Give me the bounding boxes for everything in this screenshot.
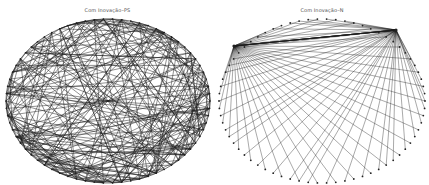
graph-node: [335, 19, 337, 21]
graph-edge: [94, 19, 103, 20]
graph-node: [9, 78, 11, 80]
graph-node: [228, 136, 230, 138]
graph-node: [112, 182, 114, 184]
graph-node: [112, 18, 114, 20]
graph-node: [232, 44, 235, 47]
graph-node: [203, 129, 205, 131]
network-graph-ps: [0, 0, 215, 185]
graph-node: [257, 36, 259, 38]
graph-node: [220, 86, 222, 88]
graph-edge: [234, 46, 423, 86]
graph-node: [7, 115, 9, 117]
graph-node: [385, 164, 387, 166]
graph-node: [422, 115, 424, 117]
graph-node: [353, 22, 355, 24]
graph-node: [424, 100, 426, 102]
graph-node: [209, 93, 211, 95]
graph-node: [244, 154, 246, 156]
graph-edge: [219, 30, 396, 101]
graph-node: [171, 164, 173, 166]
graph-edge: [223, 46, 234, 123]
graph-node: [44, 36, 46, 38]
graph-node: [25, 148, 27, 150]
graph-edge: [258, 30, 396, 165]
graph-node: [238, 52, 240, 54]
graph-node: [326, 182, 328, 184]
graph-node: [420, 78, 422, 80]
graph-node: [420, 122, 422, 124]
graph-node: [147, 176, 149, 178]
graph-node: [264, 169, 266, 171]
graph-node: [404, 52, 406, 54]
graph-node: [156, 28, 158, 30]
graph-node: [20, 58, 22, 60]
graph-node: [12, 129, 14, 131]
graph-node: [59, 28, 61, 30]
graph-edge: [20, 59, 171, 165]
graph-node: [67, 25, 69, 27]
graph-node: [51, 32, 53, 34]
graph-node: [281, 25, 283, 27]
graph-node: [147, 25, 149, 27]
graph-node: [30, 46, 32, 48]
graph-node: [326, 18, 328, 20]
graph-node: [399, 46, 401, 48]
graph-node: [184, 154, 186, 156]
graph-node: [344, 180, 346, 182]
graph-node: [317, 18, 319, 20]
graph-edge: [234, 20, 336, 46]
graph-node: [203, 71, 205, 73]
graph-node: [195, 142, 197, 144]
graph-node: [317, 182, 319, 184]
graph-node: [178, 41, 180, 43]
graph-node: [344, 20, 346, 22]
graph-node: [218, 100, 220, 102]
graph-node: [244, 46, 246, 48]
graph-node: [424, 108, 426, 110]
graph-node: [30, 154, 32, 156]
graph-edge: [234, 46, 418, 72]
graph-node: [37, 41, 39, 43]
graph-node: [225, 71, 227, 73]
graph-node: [139, 22, 141, 24]
graph-node: [37, 160, 39, 162]
graph-node: [250, 41, 252, 43]
graph-node: [225, 129, 227, 131]
graph-node: [190, 52, 192, 54]
graph-node: [7, 86, 9, 88]
graph-node: [208, 86, 210, 88]
graph-node: [219, 108, 221, 110]
graph-node: [272, 172, 274, 174]
graph-node: [209, 100, 211, 102]
graph-node: [281, 176, 283, 178]
graph-node: [362, 25, 364, 27]
network-panel-ps: Com Inovação–PS: [0, 0, 215, 185]
graph-node: [76, 22, 78, 24]
graph-node: [392, 41, 394, 43]
graph-node: [424, 93, 426, 95]
graph-edge: [234, 46, 410, 59]
graph-node: [6, 108, 8, 110]
graph-node: [370, 28, 372, 30]
graph-node: [209, 108, 211, 110]
graph-node: [130, 20, 132, 22]
graph-node: [85, 20, 87, 22]
graph-node: [264, 32, 266, 34]
graph-node: [233, 142, 235, 144]
graph-node: [103, 18, 105, 20]
graph-node: [219, 93, 221, 95]
graph-edge: [52, 29, 60, 33]
graph-edge: [60, 26, 68, 29]
graph-edge: [234, 21, 299, 46]
graph-edge: [6, 23, 77, 101]
graph-edge: [26, 149, 113, 183]
graph-node: [163, 32, 165, 34]
graph-node: [199, 65, 201, 67]
graph-node: [250, 159, 252, 161]
graph-node: [228, 65, 230, 67]
graph-edge: [273, 30, 396, 173]
network-panel-n: Com Inovação–N: [215, 0, 429, 185]
graph-node: [5, 100, 7, 102]
graph-node: [121, 19, 123, 21]
graph-node: [184, 46, 186, 48]
